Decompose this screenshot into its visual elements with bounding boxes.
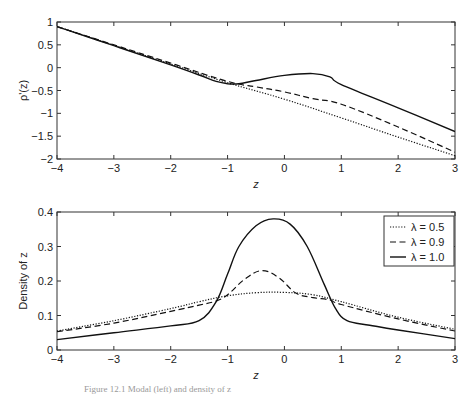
y-axis-label: Density of z <box>17 252 29 309</box>
y-tick-label: −0.5 <box>31 85 53 97</box>
plot-frame <box>57 22 455 159</box>
x-tick-label: 1 <box>338 353 344 365</box>
y-tick-label: 0.5 <box>38 39 53 51</box>
top-plot-derivative: −4−3−2−1012310.50−0.5−1−1.5−2zρ'(z) <box>17 16 458 190</box>
series-dashed-line <box>57 27 455 153</box>
legend: λ = 0.5λ = 0.9λ = 1.0 <box>384 216 454 266</box>
x-tick-label: −2 <box>164 162 177 174</box>
x-tick-label: −3 <box>108 353 121 365</box>
legend-entry: λ = 0.9 <box>411 236 444 248</box>
x-tick-label: 2 <box>395 353 401 365</box>
series-solid-line <box>57 27 455 132</box>
x-tick-label: 2 <box>395 162 401 174</box>
x-tick-label: −1 <box>221 162 234 174</box>
bottom-plot-density: −4−3−2−101230.40.30.20.10zDensity of zλ … <box>17 206 458 381</box>
figure-caption: Figure 12.1 Modal (left) and density of … <box>84 384 231 394</box>
x-axis-label: z <box>252 369 259 381</box>
legend-entry: λ = 1.0 <box>411 251 444 263</box>
y-tick-label: 0.1 <box>38 310 53 322</box>
y-axis-label: ρ'(z) <box>17 80 29 101</box>
x-tick-label: 0 <box>281 353 287 365</box>
x-tick-label: 1 <box>338 162 344 174</box>
x-tick-label: −1 <box>221 353 234 365</box>
y-tick-label: −1 <box>40 107 53 119</box>
x-tick-label: 3 <box>452 162 458 174</box>
x-tick-label: 3 <box>452 353 458 365</box>
series-dashed-line <box>57 271 455 332</box>
series-dotted-line <box>57 292 455 331</box>
y-tick-label: 1 <box>47 16 53 28</box>
x-tick-label: 0 <box>281 162 287 174</box>
x-tick-label: −2 <box>164 353 177 365</box>
y-tick-label: 0.3 <box>38 241 53 253</box>
y-tick-label: 0.4 <box>38 206 53 218</box>
y-tick-label: 0.2 <box>38 275 53 287</box>
legend-entry: λ = 0.5 <box>411 221 444 233</box>
x-tick-label: −3 <box>108 162 121 174</box>
y-tick-label: 0 <box>47 344 53 356</box>
y-tick-label: −2 <box>40 153 53 165</box>
y-tick-label: 0 <box>47 62 53 74</box>
x-axis-label: z <box>252 178 259 190</box>
y-tick-label: −1.5 <box>31 130 53 142</box>
